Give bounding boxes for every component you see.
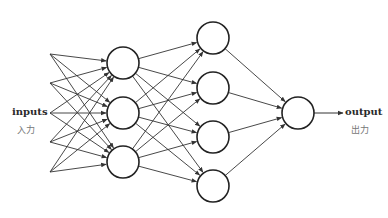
neural-network-diagram (0, 0, 388, 218)
connection-arrow (50, 83, 107, 107)
connection-arrow (135, 73, 200, 126)
hidden-1-node-1 (107, 47, 139, 79)
connection-arrow (50, 54, 106, 61)
output-node-1 (282, 97, 314, 129)
output-label: output (345, 106, 382, 117)
hidden-1-node-3 (107, 146, 139, 178)
connection-arrow (138, 142, 196, 158)
connection-arrow (228, 118, 281, 133)
hidden-2-node-4 (197, 170, 229, 202)
inputs-label-jp: 入力 (17, 123, 35, 136)
hidden-1-node-2 (107, 97, 139, 129)
inputs-label: inputs (12, 106, 48, 117)
connection-arrow (50, 83, 111, 150)
connection-arrow (132, 52, 203, 149)
hidden-2-node-1 (197, 22, 229, 54)
neuron-nodes (107, 22, 314, 202)
connection-arrow (138, 43, 196, 59)
output-label-jp: 出力 (351, 123, 369, 136)
connection-arrow (225, 124, 285, 175)
hidden-2-node-2 (197, 72, 229, 104)
connection-arrow (50, 142, 107, 158)
connection-arrow (228, 93, 281, 109)
connection-arrow (132, 76, 203, 172)
connection-arrow (50, 67, 107, 83)
connection-arrow (50, 119, 107, 142)
hidden-2-node-3 (197, 121, 229, 153)
connection-arrow (138, 166, 196, 181)
